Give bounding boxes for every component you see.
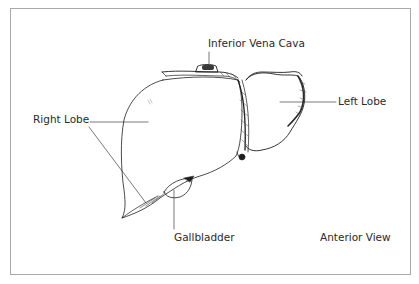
- label-left-lobe: Left Lobe: [338, 96, 386, 107]
- label-anterior-view: Anterior View: [320, 232, 391, 243]
- label-inferior-vena-cava: Inferior Vena Cava: [208, 38, 305, 49]
- label-gallbladder: Gallbladder: [174, 232, 235, 243]
- label-right-lobe: Right Lobe: [33, 114, 89, 125]
- right-lobe-edge-leader-line: [89, 127, 146, 203]
- right-lobe-outline: [121, 77, 242, 218]
